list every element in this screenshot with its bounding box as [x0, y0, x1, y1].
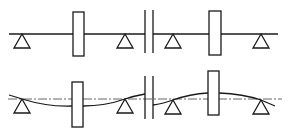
rotor-disk [72, 82, 83, 127]
deflected-shaft-row [8, 71, 282, 127]
bearing-support-icon [14, 34, 30, 48]
rotor-disk [209, 11, 221, 55]
diagram-svg [0, 0, 289, 138]
bearing-support-icon [253, 34, 269, 48]
bearing-support-icon [165, 34, 181, 48]
rotor-disk [208, 71, 219, 115]
bearing-support-icon [117, 34, 133, 48]
aligned-shaft-row [9, 10, 278, 56]
rotor-alignment-diagram [0, 0, 289, 138]
rotor-disk [73, 12, 84, 56]
